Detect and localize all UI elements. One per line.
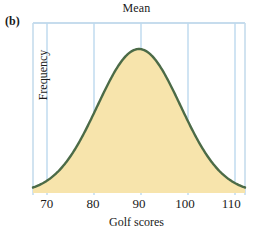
x-tick-100: 100: [165, 197, 205, 210]
distribution-fill: [33, 49, 245, 193]
y-axis-title: Frequency: [37, 15, 49, 135]
chart-title: Mean: [0, 2, 273, 14]
x-tick-80: 80: [73, 197, 113, 210]
normal-distribution-figure: (b) Mean Frequency 708090100110 Golf sco…: [0, 0, 273, 238]
distribution-curve-svg: [31, 21, 247, 196]
x-tick-70: 70: [27, 197, 67, 210]
x-axis-title: Golf scores: [0, 216, 273, 228]
x-tick-110: 110: [211, 197, 251, 210]
plot-area: Frequency: [31, 21, 247, 196]
panel-label: (b): [5, 15, 20, 27]
x-axis-tick-labels: 708090100110: [0, 197, 273, 215]
x-tick-90: 90: [119, 197, 159, 210]
